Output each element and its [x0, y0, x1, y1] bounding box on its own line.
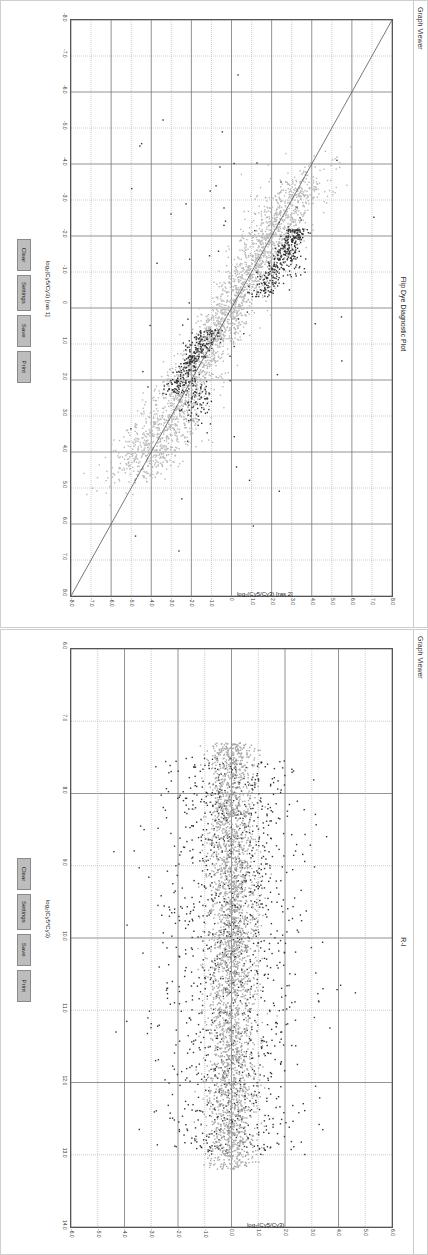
y-tick-label: -2.0 [176, 1229, 182, 1238]
y-tick-label: -8.0 [69, 598, 75, 607]
y-tick-label: -4.0 [123, 1229, 129, 1238]
graph-viewer-window: Graph Viewer Flip Dye Diagnostic Plot lo… [0, 0, 428, 628]
y-tick-label: -5.0 [129, 598, 135, 607]
y-tick-label: 0.0 [230, 1229, 236, 1236]
y-tick-label: 3.0 [290, 598, 296, 605]
y-tick-label: 3.0 [310, 1229, 316, 1236]
button-bar: Clear Settings Save Print [17, 239, 31, 383]
x-tick-label: 10.0 [62, 931, 68, 941]
y-tick-label: -3.0 [149, 1229, 155, 1238]
x-tick-label: 11.0 [62, 1003, 68, 1012]
x-tick-label: 8.0 [62, 589, 68, 596]
y-tick-label: -1.0 [209, 598, 215, 607]
print-button[interactable]: Print [17, 970, 31, 1002]
x-tick-label: 8.0 [62, 787, 68, 794]
x-tick-label: 7.0 [62, 714, 68, 721]
x-tick-label: 6.0 [62, 642, 68, 649]
y-axis-label: log₂(Cy5/Cy3) [247, 1222, 284, 1228]
x-tick-label: -8.0 [62, 13, 68, 22]
print-button[interactable]: Print [17, 351, 31, 383]
graph-viewer-slot-ri: Graph Viewer R-I log₂(Cy5*Cy3) log₂(Cy5/… [0, 629, 428, 1255]
y-tick-label: 2.0 [283, 1229, 289, 1236]
settings-button[interactable]: Settings [17, 275, 31, 311]
save-button[interactable]: Save [17, 315, 31, 347]
graph-viewer-window: Graph Viewer R-I log₂(Cy5*Cy3) log₂(Cy5/… [0, 629, 428, 1255]
clear-button[interactable]: Clear [17, 239, 31, 271]
y-tick-label: -6.0 [69, 1229, 75, 1238]
x-tick-label: -2.0 [62, 229, 68, 238]
y-tick-label: 1.0 [256, 1229, 262, 1236]
x-tick-label: 5.0 [62, 481, 68, 488]
y-tick-label: 8.0 [390, 598, 396, 605]
scatter-svg [71, 20, 392, 596]
graph-viewer-slot-flipdye: Graph Viewer Flip Dye Diagnostic Plot lo… [0, 0, 428, 628]
x-tick-label: 12.0 [62, 1076, 68, 1086]
y-tick-label: -5.0 [96, 1229, 102, 1238]
x-axis-label: log₂(Cy5*Cy3) [45, 900, 51, 938]
y-tick-label: 6.0 [390, 1229, 396, 1236]
y-tick-label: -3.0 [169, 598, 175, 607]
window-title: Graph Viewer [417, 7, 424, 50]
y-tick-label: 7.0 [370, 598, 376, 605]
window-title: Graph Viewer [417, 636, 424, 679]
x-tick-label: 13.0 [62, 1148, 68, 1158]
x-tick-label: 7.0 [62, 553, 68, 560]
y-tick-label: 0 [230, 598, 236, 601]
chart-title: R-I [400, 630, 407, 1254]
x-tick-label: -1.0 [62, 265, 68, 274]
x-tick-label: 4.0 [62, 445, 68, 452]
x-tick-label: 3.0 [62, 409, 68, 416]
y-tick-label: -7.0 [89, 598, 95, 607]
y-tick-label: 5.0 [330, 598, 336, 605]
scatter-svg [71, 649, 392, 1227]
y-tick-label: 4.0 [337, 1229, 343, 1236]
y-tick-label: 4.0 [310, 598, 316, 605]
x-tick-label: -7.0 [62, 49, 68, 58]
clear-button[interactable]: Clear [17, 858, 31, 890]
chart-title: Flip Dye Diagnostic Plot [400, 1, 407, 627]
scatter-plot-area[interactable] [70, 648, 393, 1228]
x-tick-label: -4.0 [62, 157, 68, 166]
x-tick-label: -3.0 [62, 193, 68, 202]
x-tick-label: 14.0 [62, 1220, 68, 1230]
x-tick-label: -6.0 [62, 85, 68, 94]
y-tick-label: 5.0 [363, 1229, 369, 1236]
x-tick-label: 6.0 [62, 517, 68, 524]
y-tick-label: -4.0 [149, 598, 155, 607]
title-divider [413, 630, 414, 1254]
y-axis-label: log₂(Cy5/Cy3) [ras 2] [237, 591, 293, 597]
x-axis-label: log₂(Cy5/Cy3) [ras 1] [45, 261, 51, 317]
y-tick-label: 1.0 [250, 598, 256, 605]
y-tick-label: 2.0 [270, 598, 276, 605]
y-tick-label: -6.0 [109, 598, 115, 607]
x-tick-label: 9.0 [62, 859, 68, 866]
x-tick-label: 2.0 [62, 373, 68, 380]
x-tick-label: -5.0 [62, 121, 68, 130]
x-tick-label: 1.0 [62, 337, 68, 344]
x-tick-label: 0 [62, 301, 68, 304]
scatter-plot-area[interactable] [70, 19, 393, 597]
title-divider [413, 1, 414, 627]
button-bar: Clear Settings Save Print [17, 858, 31, 1002]
y-tick-label: -1.0 [203, 1229, 209, 1238]
save-button[interactable]: Save [17, 934, 31, 966]
y-tick-label: 6.0 [350, 598, 356, 605]
settings-button[interactable]: Settings [17, 894, 31, 930]
y-tick-label: -2.0 [189, 598, 195, 607]
